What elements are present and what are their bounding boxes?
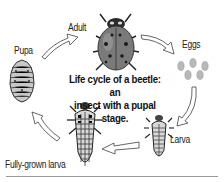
title-line-1: Life cycle of a beetle: an — [63, 73, 167, 99]
stage-label-adult: Adult — [68, 22, 86, 33]
diagram-title: Life cycle of a beetle: an insect with a… — [63, 73, 167, 125]
arrow-pupa-to-adult — [42, 34, 78, 59]
title-line-2: insect with a pupal stage. — [63, 99, 167, 125]
pupa-icon — [10, 60, 34, 102]
stage-label-larva: Larva — [170, 134, 190, 145]
adult-beetle-icon — [93, 14, 139, 70]
eggs-icon — [178, 59, 208, 80]
horizontal-rule — [6, 176, 218, 177]
arrow-adult-to-eggs — [141, 35, 174, 54]
stage-label-fully-grown-larva: Fully-grown larva — [5, 159, 65, 170]
stage-label-pupa: Pupa — [14, 45, 33, 56]
arrow-larva-to-fully-grown — [102, 142, 139, 154]
arrow-eggs-to-larva — [177, 87, 196, 126]
stage-label-eggs: Eggs — [182, 39, 200, 50]
arrow-fully-grown-to-pupa — [32, 112, 60, 141]
